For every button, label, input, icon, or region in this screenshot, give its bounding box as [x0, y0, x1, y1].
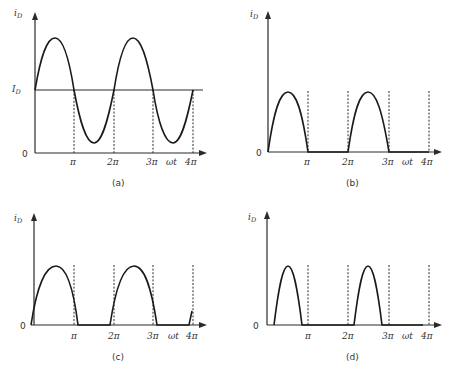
y-axis-label: iD: [248, 212, 257, 224]
tick-3pi: 3π: [382, 331, 395, 341]
x-axis-label: ωt: [402, 331, 413, 341]
panel-caption: (c): [112, 352, 124, 362]
y-axis-label: iD: [14, 8, 23, 20]
panel-caption: (a): [112, 178, 125, 188]
tick-2pi: 2π: [107, 331, 121, 341]
tick-pi: π: [70, 331, 78, 341]
tick-pi: π: [69, 157, 77, 167]
dashed-markers: [74, 90, 193, 153]
tick-3pi: 3π: [147, 331, 160, 341]
dashed-markers: [308, 91, 429, 152]
tick-2pi: 2π: [341, 157, 355, 167]
tick-4pi: 4π: [185, 331, 199, 341]
tick-4pi: 4π: [184, 157, 198, 167]
tick-4pi: 4π: [420, 157, 434, 167]
panel-c: iD 0 π 2π 3π ωt 4π (c): [14, 213, 203, 362]
panel-b: iD 0 π 2π 3π ωt 4π (b): [250, 9, 438, 188]
zero-label: 0: [22, 149, 28, 159]
dashed-markers: [308, 265, 429, 325]
x-axis-label: ωt: [166, 157, 177, 167]
tick-2pi: 2π: [341, 331, 355, 341]
tick-3pi: 3π: [382, 157, 395, 167]
y-axis-label: iD: [250, 9, 259, 21]
tick-4pi: 4π: [420, 331, 434, 341]
panel-caption: (b): [346, 178, 359, 188]
x-axis-label: ωt: [402, 157, 413, 167]
class-waveform-figure: iD ID 0 π 2π 3π ωt 4π (a) iD 0 π 2π 3π ω…: [0, 0, 452, 370]
panel-caption: (d): [346, 352, 359, 362]
zero-label: 0: [256, 148, 262, 158]
dashed-markers: [74, 265, 193, 325]
x-axis-label: ωt: [168, 331, 179, 341]
dc-level-label: ID: [11, 84, 22, 96]
tick-pi: π: [304, 331, 312, 341]
panel-d: iD 0 π 2π 3π ωt 4π (d): [248, 212, 438, 362]
panel-a: iD ID 0 π 2π 3π ωt 4π (a): [11, 8, 203, 188]
zero-label: 0: [253, 321, 259, 331]
tick-3pi: 3π: [146, 157, 159, 167]
tick-2pi: 2π: [106, 157, 120, 167]
tick-pi: π: [303, 157, 311, 167]
y-axis-label: iD: [14, 213, 23, 225]
zero-label: 0: [20, 321, 26, 331]
class-ab-curve: [31, 266, 192, 325]
